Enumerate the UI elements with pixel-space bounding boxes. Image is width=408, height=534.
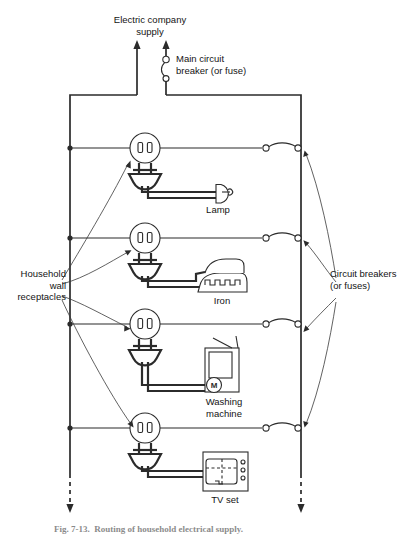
main-breaker-label: Main circuit breaker (or fuse): [176, 53, 296, 76]
circuit-breaker-icon: [263, 423, 301, 431]
left-bus-continuation: [66, 452, 73, 513]
junction-dot: [67, 321, 72, 326]
iron-icon: [198, 259, 247, 292]
circuit-breaker-icon: [263, 319, 301, 327]
supply-arrows: [133, 40, 169, 95]
right-bus-continuation: [297, 452, 304, 513]
junction-dot: [67, 145, 72, 150]
household-receptacles-label: Household wall receptacles: [0, 268, 66, 303]
plug-icon: [129, 443, 161, 469]
appliance-label-lamp: Lamp: [188, 204, 248, 216]
junction-dot: [67, 425, 72, 430]
appliance-label-iron: Iron: [194, 295, 250, 307]
figure-caption: Fig. 7-13. Routing of household electric…: [54, 524, 354, 534]
plug-icon: [129, 163, 161, 189]
circuit-breaker-icon: [263, 233, 301, 241]
circuit-breaker-icon: [263, 143, 301, 151]
wall-receptacle-icon: [130, 309, 160, 339]
plug-icon: [129, 253, 161, 279]
leader-lines-receptacles: [62, 161, 134, 428]
supply-label: Electric company supply: [92, 14, 208, 37]
household-wiring-diagram: M: [0, 0, 408, 534]
junction-dot: [67, 235, 72, 240]
main-circuit-breaker-icon: [161, 49, 169, 95]
wall-receptacle-icon: [130, 413, 160, 443]
branch-washing-machine: M: [67, 309, 301, 393]
wall-receptacle-icon: [130, 133, 160, 163]
wall-receptacle-icon: [130, 223, 160, 253]
lamp-icon: [216, 185, 233, 204]
appliance-label-washing-machine: Washing machine: [192, 396, 256, 419]
appliance-label-tv-set: TV set: [196, 494, 254, 506]
motor-label: M: [211, 381, 218, 390]
branch-iron: [67, 223, 301, 292]
washing-machine-icon: M: [205, 336, 239, 393]
branch-lamp: [67, 133, 301, 203]
tv-set-icon: [203, 452, 248, 491]
circuit-breakers-label: Circuit breakers (or fuses): [330, 268, 408, 291]
branch-tv-set: [67, 413, 301, 491]
plug-icon: [129, 339, 161, 365]
